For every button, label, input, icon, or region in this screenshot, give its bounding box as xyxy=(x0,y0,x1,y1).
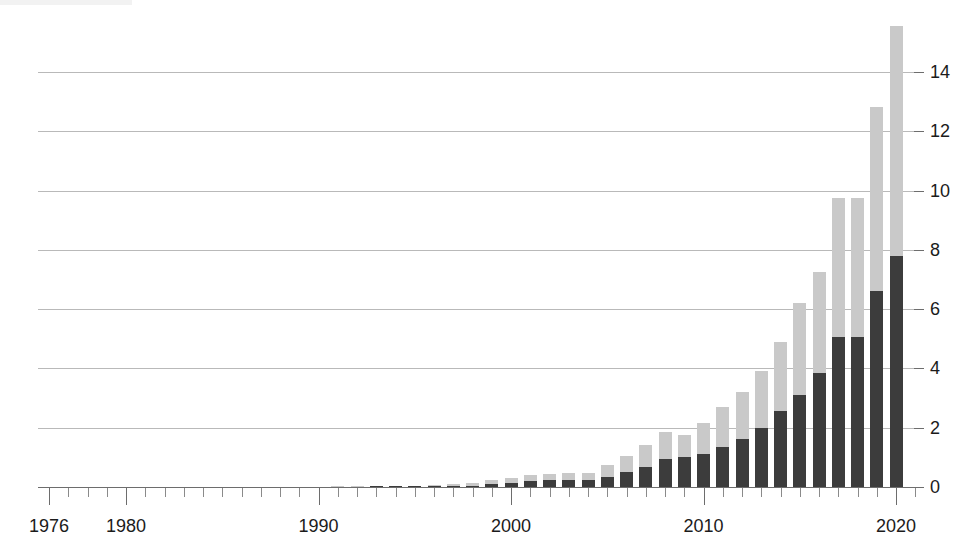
x-tick-2005 xyxy=(607,488,608,497)
bar-2005[interactable] xyxy=(601,465,614,487)
x-tick-1990 xyxy=(319,488,320,505)
x-tick-2001 xyxy=(530,488,531,497)
bar-segment-lower xyxy=(543,480,556,487)
x-tick-2006 xyxy=(627,488,628,497)
y-tick-mark-14 xyxy=(914,72,924,73)
y-tick-mark-8 xyxy=(914,250,924,251)
bar-2010[interactable] xyxy=(697,423,710,487)
y-tick-label-14: 14 xyxy=(930,63,950,81)
x-tick-1993 xyxy=(376,488,377,497)
y-axis: 02468101214 xyxy=(914,0,967,560)
x-tick-1987 xyxy=(261,488,262,497)
bar-segment-lower xyxy=(582,480,595,487)
y-tick-label-12: 12 xyxy=(930,122,950,140)
plot-area xyxy=(38,14,914,488)
bar-2019[interactable] xyxy=(870,107,883,487)
x-tick-2000 xyxy=(511,488,512,505)
bar-segment-lower xyxy=(793,395,806,487)
bar-2003[interactable] xyxy=(562,473,575,487)
bar-segment-lower xyxy=(832,337,845,487)
bar-segment-upper xyxy=(870,107,883,291)
bar-segment-upper xyxy=(659,432,672,459)
bar-2009[interactable] xyxy=(678,435,691,487)
bar-segment-lower xyxy=(851,337,864,487)
x-tick-1994 xyxy=(396,488,397,497)
bar-segment-upper xyxy=(851,198,864,337)
y-tick-mark-12 xyxy=(914,131,924,132)
x-tick-1976 xyxy=(49,488,50,505)
bar-2011[interactable] xyxy=(716,407,729,487)
bar-segment-upper xyxy=(736,392,749,439)
x-tick-1982 xyxy=(165,488,166,497)
bar-segment-upper xyxy=(601,465,614,477)
x-tick-1996 xyxy=(434,488,435,497)
bar-segment-upper xyxy=(832,198,845,337)
x-tick-label-2010: 2010 xyxy=(683,516,723,536)
x-tick-1977 xyxy=(68,488,69,497)
bar-segment-upper xyxy=(813,272,826,373)
x-tick-label-1976: 1976 xyxy=(29,516,69,536)
bar-2006[interactable] xyxy=(620,456,633,487)
bar-segment-lower xyxy=(659,459,672,487)
y-tick-label-8: 8 xyxy=(930,241,940,259)
bar-2000[interactable] xyxy=(505,478,518,487)
bar-2015[interactable] xyxy=(793,303,806,487)
x-tick-1986 xyxy=(242,488,243,497)
bar-chart: 02468101214 197619801990200020102020 xyxy=(0,0,967,560)
bar-segment-upper xyxy=(774,342,787,412)
x-tick-2013 xyxy=(761,488,762,497)
x-tick-2011 xyxy=(723,488,724,497)
x-tick-1985 xyxy=(222,488,223,497)
x-tick-2009 xyxy=(684,488,685,497)
x-tick-2018 xyxy=(858,488,859,497)
y-tick-mark-2 xyxy=(914,428,924,429)
bar-segment-lower xyxy=(813,373,826,487)
bar-segment-lower xyxy=(736,439,749,487)
top-edge-artifact xyxy=(0,0,132,5)
bar-2001[interactable] xyxy=(524,475,537,487)
bar-2004[interactable] xyxy=(582,473,595,487)
bar-2018[interactable] xyxy=(851,198,864,487)
x-tick-2008 xyxy=(665,488,666,497)
x-tick-2021 xyxy=(915,488,916,497)
bar-segment-upper xyxy=(620,456,633,472)
bar-2002[interactable] xyxy=(543,474,556,487)
bar-segment-upper xyxy=(678,435,691,457)
y-tick-label-4: 4 xyxy=(930,359,940,377)
y-tick-mark-4 xyxy=(914,368,924,369)
y-tick-label-6: 6 xyxy=(930,300,940,318)
y-tick-label-10: 10 xyxy=(930,182,950,200)
bar-segment-lower xyxy=(562,480,575,487)
bar-segment-upper xyxy=(890,26,903,256)
bar-segment-upper xyxy=(562,473,575,480)
x-tick-2010 xyxy=(704,488,705,505)
x-axis: 197619801990200020102020 xyxy=(0,488,967,560)
bar-segment-lower xyxy=(774,411,787,487)
bar-2017[interactable] xyxy=(832,198,845,487)
bar-segment-upper xyxy=(755,371,768,427)
bar-2007[interactable] xyxy=(639,445,652,487)
x-tick-1995 xyxy=(415,488,416,497)
bar-segment-upper xyxy=(639,445,652,467)
x-tick-1992 xyxy=(357,488,358,497)
bar-segment-lower xyxy=(870,291,883,487)
bar-segment-lower xyxy=(890,256,903,487)
bar-2013[interactable] xyxy=(755,371,768,487)
bar-2014[interactable] xyxy=(774,342,787,487)
x-tick-2020 xyxy=(896,488,897,505)
x-tick-1999 xyxy=(492,488,493,497)
bar-2020[interactable] xyxy=(890,26,903,487)
bar-2012[interactable] xyxy=(736,392,749,487)
x-tick-label-2020: 2020 xyxy=(876,516,916,536)
bar-segment-lower xyxy=(697,454,710,487)
bar-2016[interactable] xyxy=(813,272,826,487)
x-tick-2019 xyxy=(877,488,878,497)
bar-segment-upper xyxy=(716,407,729,447)
y-tick-mark-10 xyxy=(914,191,924,192)
x-tick-1980 xyxy=(126,488,127,505)
x-tick-1991 xyxy=(338,488,339,497)
bar-1999[interactable] xyxy=(485,480,498,487)
bar-segment-lower xyxy=(716,447,729,487)
bar-2008[interactable] xyxy=(659,432,672,487)
x-tick-1989 xyxy=(299,488,300,497)
